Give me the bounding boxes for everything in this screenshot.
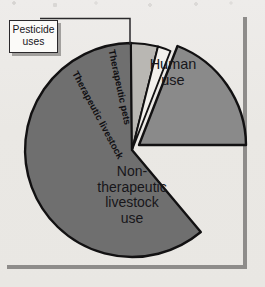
pesticide-uses-callout: Pesticide uses (9, 20, 58, 53)
pie-chart-figure: Pesticide uses Human use Non- therapeuti… (0, 0, 265, 287)
